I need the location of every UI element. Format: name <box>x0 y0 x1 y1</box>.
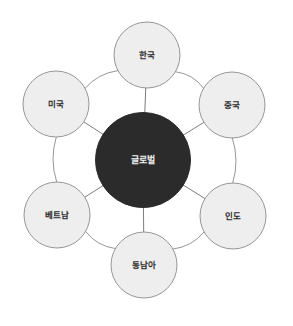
global-network-diagram: 글로벌한국중국인도동남아베트남미국 <box>0 0 293 326</box>
satellite-circle-vietnam <box>24 182 90 248</box>
diagram-canvas: 글로벌한국중국인도동남아베트남미국 <box>0 0 293 326</box>
ring-connector-southeast-asia-to-vietnam <box>86 231 116 248</box>
hub-circle <box>96 113 191 208</box>
satellite-node-korea[interactable]: 한국 <box>114 22 180 88</box>
satellite-node-southeast-asia[interactable]: 동남아 <box>111 232 177 298</box>
ring-connector-korea-to-china <box>175 72 203 89</box>
ring-connector-usa-to-korea <box>85 71 118 89</box>
spoke-connector-hub-to-india <box>182 185 205 199</box>
satellite-circle-korea <box>114 22 180 88</box>
satellite-circle-china <box>199 72 265 138</box>
satellite-circle-southeast-asia <box>111 232 177 298</box>
satellite-circle-usa <box>23 71 89 137</box>
satellite-node-usa[interactable]: 미국 <box>23 71 89 137</box>
satellite-circle-india <box>200 183 266 249</box>
node-layer: 글로벌한국중국인도동남아베트남미국 <box>23 22 266 298</box>
ring-connector-india-to-southeast-asia <box>173 232 204 249</box>
satellite-node-china[interactable]: 중국 <box>199 72 265 138</box>
spoke-connector-hub-to-usa <box>84 122 104 135</box>
satellite-node-india[interactable]: 인도 <box>200 183 266 249</box>
spoke-connector-hub-to-vietnam <box>85 185 104 197</box>
satellite-node-vietnam[interactable]: 베트남 <box>24 182 90 248</box>
hub-node-global[interactable]: 글로벌 <box>96 113 191 208</box>
ring-connector-vietnam-to-usa <box>53 137 57 182</box>
spoke-connector-hub-to-korea <box>145 88 146 114</box>
spoke-connector-hub-to-china <box>183 122 204 135</box>
ring-connector-china-to-india <box>232 138 236 183</box>
